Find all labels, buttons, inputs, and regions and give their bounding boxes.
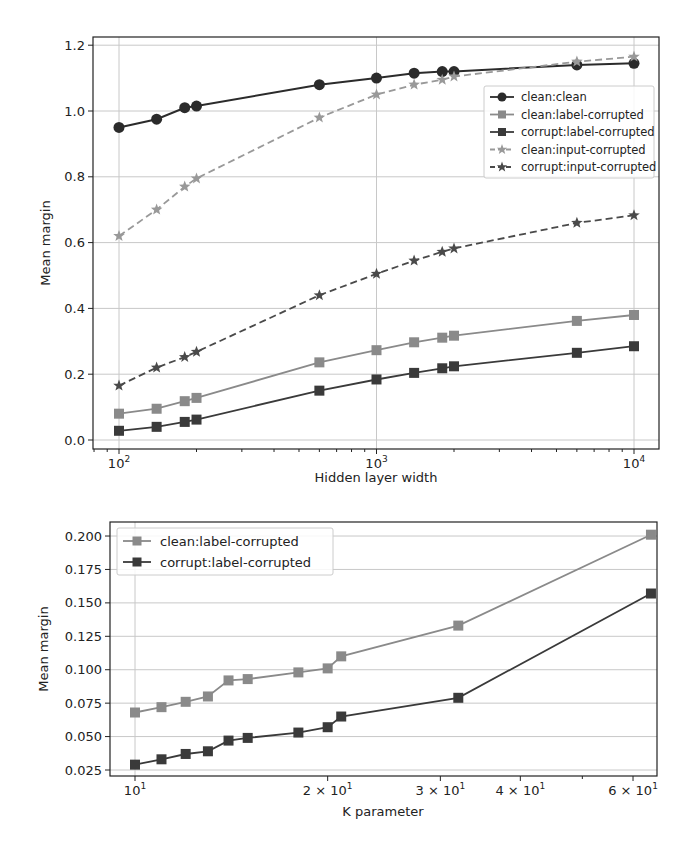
top-y-axis-label: Mean margin (38, 200, 53, 285)
data-point (409, 368, 419, 378)
top-x-axis-label: Hidden layer width (315, 470, 438, 485)
x-tick-label: 6 × 101 (608, 781, 658, 798)
data-point (572, 348, 582, 358)
x-tick-label: 4 × 101 (495, 781, 545, 798)
legend-label: clean:label-corrupted (160, 534, 299, 549)
data-point (203, 691, 213, 701)
y-tick-label: 0.6 (64, 235, 85, 250)
y-tick-label: 0.050 (65, 729, 102, 744)
data-point (156, 754, 166, 764)
data-point (409, 68, 420, 79)
data-point (243, 674, 253, 684)
legend-marker (498, 93, 507, 102)
data-point (437, 363, 447, 373)
data-point (224, 736, 234, 746)
data-point (114, 122, 125, 133)
data-point (314, 289, 326, 300)
data-point (192, 415, 202, 425)
data-point (629, 58, 640, 69)
data-point (453, 693, 463, 703)
data-point (323, 663, 333, 673)
x-tick-label: 101 (124, 781, 146, 798)
data-point (114, 426, 124, 436)
data-point (151, 362, 163, 373)
data-point (371, 73, 382, 84)
data-point (179, 351, 191, 362)
data-point (408, 79, 420, 90)
legend-label: corrupt:label-corrupted (160, 555, 311, 570)
y-tick-label: 0.200 (65, 529, 102, 544)
data-point (408, 255, 420, 266)
data-point (449, 331, 459, 341)
y-tick-label: 0.175 (65, 562, 102, 577)
data-point (130, 760, 140, 770)
data-point (646, 530, 656, 540)
legend-marker (498, 111, 506, 119)
data-point (314, 79, 325, 90)
data-point (152, 404, 162, 414)
legend-label: clean:input-corrupted (521, 143, 646, 157)
legend-marker (133, 558, 142, 567)
legend-marker (498, 128, 506, 136)
x-tick-label: 103 (365, 454, 387, 471)
data-point (372, 345, 382, 355)
data-point (314, 112, 326, 123)
y-tick-label: 0.2 (64, 367, 85, 382)
data-point (152, 422, 162, 432)
y-tick-label: 0.4 (64, 301, 85, 316)
legend-marker (133, 537, 142, 546)
top-chart: 0.00.20.40.60.81.01.2102103104 Hidden la… (38, 37, 659, 485)
top-legend: clean:cleanclean:label-corruptedcorrupt:… (484, 86, 656, 178)
series-line (135, 594, 651, 765)
bottom-x-axis-label: K parameter (342, 804, 424, 819)
data-point (437, 246, 449, 257)
legend-label: clean:label-corrupted (521, 108, 644, 122)
data-point (180, 396, 190, 406)
y-tick-label: 1.2 (64, 38, 85, 53)
data-point (336, 651, 346, 661)
x-tick-label: 104 (623, 454, 646, 471)
x-tick-label: 2 × 101 (303, 781, 353, 798)
y-tick-label: 0.100 (65, 662, 102, 677)
y-tick-label: 0.0 (64, 433, 85, 448)
x-tick-label: 102 (108, 454, 130, 471)
data-point (130, 708, 140, 718)
data-point (293, 667, 303, 677)
data-point (572, 316, 582, 326)
data-point (453, 621, 463, 631)
data-point (114, 409, 124, 419)
bottom-chart: 0.0250.0500.0750.1000.1250.1500.1750.200… (36, 522, 658, 819)
y-tick-label: 0.075 (65, 696, 102, 711)
data-point (409, 337, 419, 347)
data-point (646, 589, 656, 599)
data-point (437, 74, 449, 85)
legend-label: corrupt:label-corrupted (521, 125, 655, 139)
data-point (437, 333, 447, 343)
bottom-y-axis-label: Mean margin (36, 606, 51, 691)
bottom-legend: clean:label-corruptedcorrupt:label-corru… (117, 528, 333, 575)
data-point (181, 749, 191, 759)
data-point (151, 114, 162, 125)
data-point (449, 361, 459, 371)
data-point (179, 102, 190, 113)
data-point (314, 386, 324, 396)
data-point (293, 728, 303, 738)
y-tick-label: 0.125 (65, 629, 102, 644)
y-tick-label: 0.025 (65, 763, 102, 778)
y-tick-label: 0.8 (64, 169, 85, 184)
data-point (372, 374, 382, 384)
data-point (156, 702, 166, 712)
data-point (203, 746, 213, 756)
data-point (243, 733, 253, 743)
figure: 0.00.20.40.60.81.01.2102103104 Hidden la… (0, 0, 697, 859)
data-point (314, 357, 324, 367)
data-point (180, 417, 190, 427)
data-point (448, 242, 460, 253)
data-point (336, 712, 346, 722)
legend-label: clean:clean (521, 90, 587, 104)
legend-label: corrupt:input-corrupted (521, 160, 656, 174)
data-point (629, 310, 639, 320)
y-tick-label: 1.0 (64, 104, 85, 119)
data-point (224, 675, 234, 685)
data-point (571, 217, 583, 228)
